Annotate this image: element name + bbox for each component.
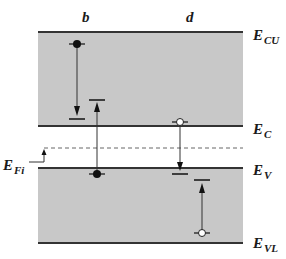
label-efi: EFi <box>3 158 24 173</box>
conduction-band <box>38 32 243 126</box>
label-ev-sub: V <box>264 169 271 181</box>
label-ecu-sub: CU <box>264 34 279 46</box>
label-ecu-main: E <box>253 27 263 43</box>
band-diagram <box>0 0 286 259</box>
label-evl-main: E <box>253 235 263 251</box>
electron-icon <box>93 170 101 178</box>
valence-band <box>38 168 243 243</box>
label-ec-main: E <box>253 121 263 137</box>
label-evl: EVL <box>253 236 278 251</box>
electron-icon <box>73 40 81 48</box>
label-efi-sub: Fi <box>14 164 24 176</box>
hole-icon <box>199 230 206 237</box>
column-label-d: d <box>186 10 194 25</box>
efi-pointer-arrowhead <box>42 149 47 155</box>
efi-pointer-line <box>29 153 44 162</box>
label-ev-main: E <box>253 162 263 178</box>
label-evl-sub: VL <box>264 242 278 254</box>
label-efi-main: E <box>3 157 13 173</box>
label-ev: EV <box>253 163 271 178</box>
hole-icon <box>177 119 184 126</box>
label-ec: EC <box>253 122 271 137</box>
label-ecu: ECU <box>253 28 279 43</box>
column-label-b: b <box>82 10 90 25</box>
label-ec-sub: C <box>264 128 271 140</box>
